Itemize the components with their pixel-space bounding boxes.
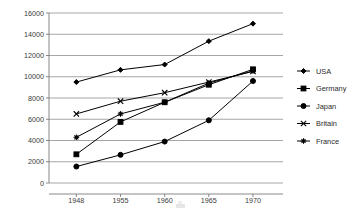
footer-artifact bbox=[176, 201, 185, 208]
y-tick-label: 8000 bbox=[28, 94, 44, 103]
data-point-star bbox=[74, 135, 80, 141]
chart-canvas: 0200040006000800010000120001400016000 19… bbox=[0, 0, 363, 213]
data-series-group bbox=[74, 21, 256, 169]
gridlines bbox=[49, 13, 283, 183]
data-point-circle bbox=[118, 152, 123, 157]
x-axis-tick-labels: 19481955196019651970 bbox=[68, 196, 261, 205]
data-point-square bbox=[74, 152, 79, 157]
legend-item-britain[interactable]: Britain bbox=[297, 119, 337, 128]
series-usa bbox=[74, 21, 256, 84]
y-tick-label: 10000 bbox=[24, 72, 44, 81]
series-france bbox=[74, 68, 256, 140]
legend-label: Germany bbox=[316, 84, 347, 93]
x-tick-label: 1960 bbox=[157, 196, 173, 205]
legend-item-usa[interactable]: USA bbox=[297, 67, 331, 76]
legend-item-france[interactable]: France bbox=[297, 137, 339, 146]
data-point-circle bbox=[301, 104, 306, 109]
y-tick-label: 6000 bbox=[28, 115, 44, 124]
data-point-star bbox=[118, 111, 124, 117]
x-tick-label: 1965 bbox=[201, 196, 217, 205]
y-tick-label: 4000 bbox=[28, 136, 44, 145]
data-point-circle bbox=[74, 164, 79, 169]
y-tick-label: 16000 bbox=[24, 9, 44, 18]
legend-item-germany[interactable]: Germany bbox=[297, 84, 347, 93]
legend-label: France bbox=[316, 137, 339, 146]
legend-label: USA bbox=[316, 67, 331, 76]
data-point-star bbox=[301, 138, 307, 144]
data-point-circle bbox=[162, 139, 167, 144]
data-point-circle bbox=[206, 118, 211, 123]
data-point-square bbox=[301, 86, 306, 91]
series-britain bbox=[74, 69, 256, 117]
data-point-square bbox=[118, 120, 123, 125]
data-point-diamond bbox=[162, 62, 167, 67]
x-tick-label: 1948 bbox=[68, 196, 84, 205]
legend-item-japan[interactable]: Japan bbox=[297, 102, 336, 111]
legend-label: Britain bbox=[316, 119, 337, 128]
y-tick-label: 12000 bbox=[24, 51, 44, 60]
data-point-diamond bbox=[206, 39, 211, 44]
legend-label: Japan bbox=[316, 102, 336, 111]
chart-legend: USAGermanyJapanBritainFrance bbox=[297, 67, 347, 146]
series-line bbox=[76, 24, 253, 82]
y-axis-tick-labels: 0200040006000800010000120001400016000 bbox=[24, 9, 49, 188]
data-point-diamond bbox=[74, 80, 79, 85]
x-tick-label: 1970 bbox=[245, 196, 261, 205]
y-tick-label: 2000 bbox=[28, 157, 44, 166]
y-tick-label: 0 bbox=[40, 179, 44, 188]
line-chart: 0200040006000800010000120001400016000 19… bbox=[0, 0, 363, 213]
x-tick-label: 1955 bbox=[113, 196, 129, 205]
data-point-x bbox=[74, 111, 79, 116]
data-point-diamond bbox=[118, 67, 123, 72]
data-point-circle bbox=[250, 79, 255, 84]
data-point-diamond bbox=[301, 69, 306, 74]
y-tick-label: 14000 bbox=[24, 30, 44, 39]
data-point-diamond bbox=[250, 21, 255, 26]
